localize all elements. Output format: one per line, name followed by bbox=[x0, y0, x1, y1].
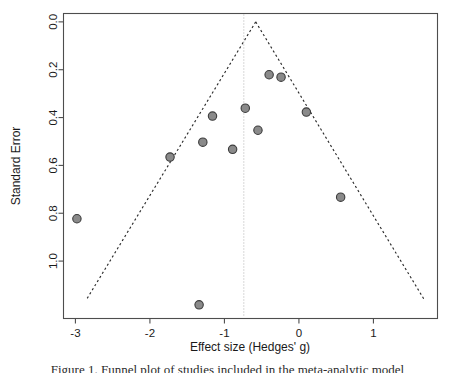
data-point bbox=[277, 73, 285, 81]
y-tick-label: 0.2 bbox=[47, 62, 59, 78]
data-point bbox=[336, 193, 344, 201]
data-point bbox=[208, 112, 216, 120]
x-axis-title: Effect size (Hedges' g) bbox=[190, 340, 310, 354]
y-tick-label: 0.4 bbox=[47, 109, 59, 126]
figure-caption: Figure 1. Funnel plot of studies include… bbox=[0, 362, 455, 373]
x-tick-label: 0 bbox=[296, 327, 302, 339]
data-point bbox=[195, 301, 203, 309]
x-tick-label: -3 bbox=[70, 327, 80, 339]
x-tick-label: -1 bbox=[219, 327, 229, 339]
y-axis-title: Standard Error bbox=[9, 127, 23, 206]
funnel-plot-figure: 0.00.20.40.60.81.0 -3-2-101 Effect size … bbox=[0, 0, 455, 373]
data-point bbox=[73, 215, 81, 223]
data-point bbox=[254, 126, 262, 134]
x-tick-label: -2 bbox=[145, 327, 155, 339]
data-point bbox=[199, 138, 207, 146]
y-tick-label: 1.0 bbox=[47, 253, 59, 269]
funnel-plot-svg: 0.00.20.40.60.81.0 -3-2-101 Effect size … bbox=[0, 0, 455, 373]
x-tick-label: 1 bbox=[370, 327, 376, 339]
data-point bbox=[228, 145, 236, 153]
data-point bbox=[241, 104, 249, 112]
y-tick-label: 0.6 bbox=[47, 157, 59, 173]
data-point bbox=[265, 71, 273, 79]
y-tick-label: 0.8 bbox=[47, 205, 59, 221]
data-point bbox=[166, 153, 174, 161]
data-point bbox=[302, 108, 310, 116]
plot-background bbox=[0, 0, 455, 373]
y-tick-label: 0.0 bbox=[47, 14, 59, 30]
